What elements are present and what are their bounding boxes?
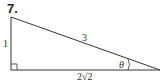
right-angle-marker: [11, 64, 17, 70]
hypotenuse-label: 3: [82, 32, 87, 43]
angle-arc: [128, 59, 130, 70]
triangle-shape: [11, 17, 160, 70]
angle-theta-label: θ: [119, 59, 124, 70]
side-vertical-label: 1: [3, 38, 8, 49]
base-label: 2√2: [77, 71, 93, 82]
